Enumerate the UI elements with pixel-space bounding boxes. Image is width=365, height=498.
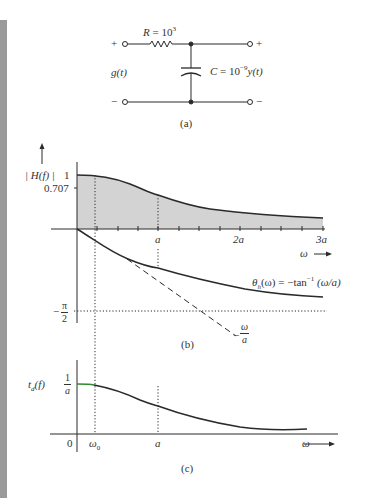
x-tick-omega0: ω0 (89, 438, 100, 449)
neg-pi-half-sign: − (53, 306, 59, 317)
x-tick-2a: 2a (233, 234, 244, 245)
input-terminal-top (123, 42, 128, 47)
y-tick-1: 1 (64, 170, 70, 181)
output-minus: − (256, 96, 262, 107)
delay-axis-label: td(f) (28, 379, 45, 390)
input-signal-label: g(t) (111, 67, 127, 78)
x-tick-a: a (155, 234, 161, 245)
up-arrow-icon (40, 143, 45, 149)
y-tick-one-over-a: 1a (64, 373, 71, 396)
capacitor-label: C = 10−9y(t) (210, 66, 263, 77)
right-arrow-icon (326, 252, 332, 257)
neg-pi-half-fraction: π2 (61, 301, 68, 324)
figure-canvas (0, 0, 365, 498)
input-minus: − (111, 96, 117, 107)
x-tick-a-c: a (155, 438, 161, 449)
phase-formula-label: θh(ω) = −tan−1 (ω/a) (252, 277, 341, 288)
output-plus: + (256, 38, 262, 49)
x-tick-zero: 0 (67, 438, 73, 449)
output-terminal-top (248, 42, 253, 47)
x-tick-3a: 3a (316, 234, 327, 245)
input-plus: + (111, 38, 117, 49)
asymptote-dashed (127, 259, 236, 336)
caption-b: (b) (181, 339, 194, 350)
y-tick-0707: 0.707 (44, 183, 69, 194)
x-axis-label-omega-c: ω (302, 438, 310, 449)
output-terminal-bottom (248, 100, 253, 105)
caption-c: (c) (181, 463, 193, 474)
magnitude-plot (40, 143, 333, 433)
resistor-label: R = 103 (143, 27, 176, 38)
resistor-icon (150, 41, 172, 47)
magnitude-axis-label: | H(f) | (25, 170, 55, 181)
asymptote-sign: − (233, 330, 239, 341)
caption-a: (a) (180, 118, 192, 129)
input-terminal-bottom (123, 100, 128, 105)
asymptote-fraction: ωa (240, 322, 249, 345)
right-arrow-icon (329, 442, 335, 447)
x-axis-label-omega: ω (300, 248, 308, 259)
